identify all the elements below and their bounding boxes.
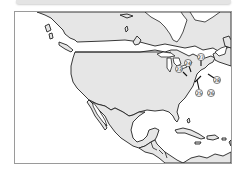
svg-text:24: 24 bbox=[185, 61, 191, 66]
marker-26[interactable]: 26 bbox=[207, 89, 214, 96]
bahamas bbox=[187, 118, 190, 123]
puerto-rico bbox=[222, 138, 226, 140]
lesser-antilles bbox=[229, 140, 231, 146]
svg-text:27: 27 bbox=[198, 55, 204, 60]
hispaniola bbox=[207, 135, 219, 140]
svg-text:25: 25 bbox=[196, 91, 202, 96]
south-america bbox=[183, 152, 231, 163]
marker-25[interactable]: 25 bbox=[195, 89, 202, 96]
jamaica bbox=[195, 142, 201, 144]
marker-24[interactable]: 24 bbox=[184, 59, 191, 66]
svg-text:26: 26 bbox=[208, 91, 214, 96]
coastal-island-2 bbox=[49, 33, 53, 39]
marker-27[interactable]: 27 bbox=[197, 53, 204, 60]
marker-25-pointer bbox=[197, 80, 199, 89]
svg-text:28: 28 bbox=[214, 78, 220, 83]
north-america-map: 23 24 25 26 27 28 bbox=[15, 12, 231, 163]
coastal-island-1 bbox=[45, 24, 51, 32]
marker-28[interactable]: 28 bbox=[213, 76, 220, 83]
top-shadow-bar bbox=[16, 0, 231, 4]
cuba bbox=[175, 128, 205, 139]
map-frame: 23 24 25 26 27 28 bbox=[14, 11, 232, 164]
vancouver-island bbox=[59, 42, 73, 52]
svg-text:23: 23 bbox=[176, 67, 182, 72]
marker-23[interactable]: 23 bbox=[175, 65, 182, 72]
